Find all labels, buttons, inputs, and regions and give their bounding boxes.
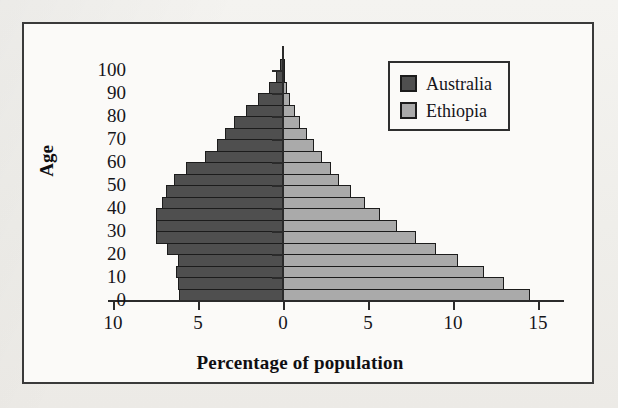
figure-frame: [22, 22, 594, 384]
